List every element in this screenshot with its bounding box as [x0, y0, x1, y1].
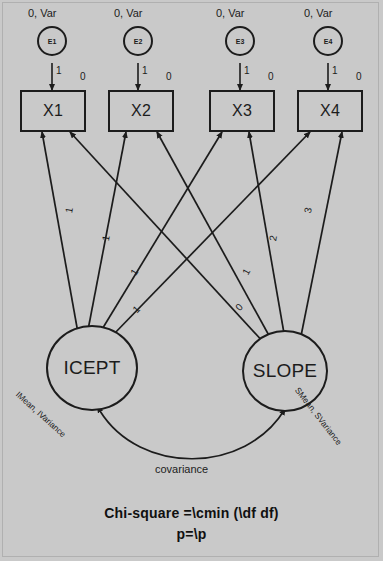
error-label-E1: E1 — [48, 38, 57, 45]
observed-label-X4: X4 — [320, 102, 340, 120]
observed-box-X2[interactable]: X2 — [108, 90, 174, 132]
error-label-E3: E3 — [236, 38, 245, 45]
intercept-label-X3: 0 — [268, 72, 274, 82]
observed-label-X2: X2 — [131, 102, 151, 120]
covariance-label: covariance — [155, 464, 208, 475]
latent-label-icept: ICEPT — [64, 357, 121, 379]
error-param-E4: 0, Var — [304, 8, 333, 19]
error-circle-E1[interactable]: E1 — [37, 26, 67, 56]
diagram-lines-layer — [0, 0, 383, 561]
error-circle-E4[interactable]: E4 — [313, 26, 343, 56]
error-circle-E2[interactable]: E2 — [123, 26, 153, 56]
error-path-label-E3: 1 — [244, 66, 250, 76]
intercept-label-X4: 0 — [356, 72, 362, 82]
error-path-label-E1: 1 — [56, 66, 62, 76]
observed-box-X1[interactable]: X1 — [20, 90, 86, 132]
path-diagram-canvas: E1 E2 E3 E4 0, Var 0, Var 0, Var 0, Var … — [0, 0, 383, 561]
error-circle-E3[interactable]: E3 — [225, 26, 255, 56]
error-path-label-E4: 1 — [332, 66, 338, 76]
error-label-E2: E2 — [134, 38, 143, 45]
latent-circle-slope[interactable]: SLOPE — [242, 330, 328, 412]
error-label-E4: E4 — [324, 38, 333, 45]
error-path-label-E2: 1 — [142, 66, 148, 76]
intercept-label-X2: 0 — [166, 72, 172, 82]
error-param-E2: 0, Var — [114, 8, 143, 19]
error-param-E1: 0, Var — [28, 8, 57, 19]
covariance-path — [100, 409, 285, 459]
intercept-label-X1: 0 — [80, 72, 86, 82]
observed-box-X4[interactable]: X4 — [297, 90, 363, 132]
loading-ICEPT-X4 — [112, 132, 310, 336]
observed-box-X3[interactable]: X3 — [209, 90, 275, 132]
error-param-E3: 0, Var — [216, 8, 245, 19]
error-to-observed-paths — [52, 63, 328, 90]
observed-label-X3: X3 — [232, 102, 252, 120]
latent-circle-icept[interactable]: ICEPT — [46, 325, 138, 411]
fit-chi-square-text: Chi-square =\cmin (\df df) — [0, 505, 383, 521]
fit-p-value-text: p=\p — [0, 526, 383, 542]
loading-SLOPE-X4 — [300, 132, 342, 341]
observed-label-X1: X1 — [43, 102, 63, 120]
loading-ICEPT-X1 — [42, 132, 78, 333]
latent-label-slope: SLOPE — [253, 360, 317, 382]
